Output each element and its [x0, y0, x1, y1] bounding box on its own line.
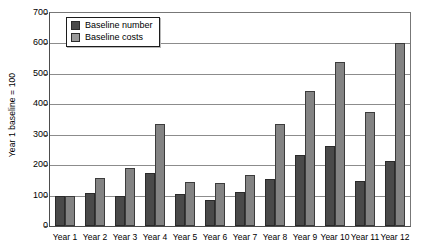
y-axis-tick-label: 300	[4, 129, 48, 140]
legend-swatch-icon	[71, 33, 80, 42]
legend-swatch-icon	[71, 21, 80, 30]
y-axis-tick-label: 600	[4, 37, 48, 48]
x-axis-tick-label: Year 10	[320, 229, 350, 245]
y-axis: 7006005004003002001000	[0, 12, 48, 228]
x-axis-tick-label: Year 3	[110, 229, 140, 245]
y-axis-tick-mark	[44, 74, 48, 75]
bar-costs	[185, 182, 195, 226]
bar-number	[85, 193, 95, 226]
bar-chart: Year 1 baseline = 100 700600500400300200…	[0, 0, 425, 250]
bar-group	[380, 13, 410, 226]
bar-number	[265, 179, 275, 226]
bar-costs	[125, 168, 135, 226]
bar-number	[205, 200, 215, 226]
y-axis-tick-mark	[44, 165, 48, 166]
bar-costs	[395, 43, 405, 226]
bar-number	[175, 194, 185, 226]
bar-group	[350, 13, 380, 226]
y-axis-tick-mark	[44, 196, 48, 197]
bar-group	[230, 13, 260, 226]
y-axis-tick-label: 200	[4, 159, 48, 170]
bar-number	[385, 161, 395, 226]
bar-costs	[335, 62, 345, 226]
y-axis-tick-label: 700	[4, 7, 48, 18]
bar-number	[55, 196, 65, 226]
legend-label: Baseline number	[85, 20, 153, 31]
bar-number	[115, 196, 125, 226]
legend-item: Baseline costs	[71, 32, 153, 43]
x-axis-tick-label: Year 2	[80, 229, 110, 245]
y-axis-tick-mark	[44, 226, 48, 227]
bar-costs	[365, 112, 375, 226]
x-axis-tick-label: Year 9	[290, 229, 320, 245]
x-axis-tick-label: Year 4	[140, 229, 170, 245]
x-axis-tick-label: Year 1	[50, 229, 80, 245]
bar-group	[170, 13, 200, 226]
bar-costs	[65, 196, 75, 226]
bar-group	[320, 13, 350, 226]
bar-group	[200, 13, 230, 226]
y-axis-tick-mark	[44, 43, 48, 44]
legend-label: Baseline costs	[85, 32, 143, 43]
x-axis-tick-label: Year 5	[170, 229, 200, 245]
bar-group	[290, 13, 320, 226]
bar-costs	[305, 91, 315, 226]
x-axis-tick-label: Year 8	[260, 229, 290, 245]
x-axis-tick-label: Year 6	[200, 229, 230, 245]
x-axis-tick-label: Year 12	[380, 229, 410, 245]
x-axis-tick-label: Year 7	[230, 229, 260, 245]
y-axis-tick-label: 500	[4, 68, 48, 79]
legend-item: Baseline number	[71, 20, 153, 31]
bar-number	[145, 173, 155, 226]
bar-costs	[275, 124, 285, 226]
y-axis-tick-label: 0	[4, 220, 48, 231]
y-axis-tick-mark	[44, 135, 48, 136]
y-axis-tick-label: 100	[4, 190, 48, 201]
bar-number	[325, 146, 335, 226]
bar-costs	[155, 124, 165, 226]
y-axis-tick-mark	[44, 104, 48, 105]
bar-costs	[245, 175, 255, 226]
bar-costs	[95, 178, 105, 226]
x-axis-labels: Year 1Year 2Year 3Year 4Year 5Year 6Year…	[50, 229, 410, 245]
bar-number	[355, 181, 365, 226]
y-axis-tick-mark	[44, 13, 48, 14]
chart-legend: Baseline numberBaseline costs	[66, 17, 160, 47]
bar-costs	[215, 183, 225, 226]
bar-number	[235, 192, 245, 226]
bar-group	[260, 13, 290, 226]
y-axis-tick-label: 400	[4, 98, 48, 109]
x-axis-tick-label: Year 11	[350, 229, 380, 245]
bar-number	[295, 155, 305, 227]
